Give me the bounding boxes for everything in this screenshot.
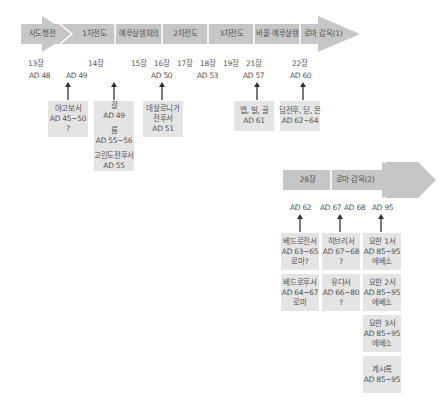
letter-date: AD 62~64 (282, 116, 318, 126)
letter-box-1-peter: 베드로전서 AD 63~65 로마? (281, 233, 319, 270)
segment-jerusalem-council: 예루살렘회의 (116, 24, 162, 44)
letter-date: AD 51 (152, 124, 173, 134)
segment-rome-prison-1: 로마 감옥(1) (301, 24, 345, 44)
date-label: AD 53 (197, 71, 218, 80)
up-arrow-icon (157, 82, 167, 100)
chapter-label: 18장 (200, 57, 216, 68)
letter-title: 요한 3서 (369, 319, 396, 329)
letter-title: 요한 2서 (369, 278, 396, 288)
letter-date: AD 55~56 (96, 136, 132, 146)
date-label: AD 49 (66, 71, 87, 80)
date-label: AD 67 (320, 203, 341, 212)
letter-box-thessalonians: 데살로니가 전후서 AD 51 (143, 101, 183, 137)
chapter-label: 15장 (131, 57, 147, 68)
letter-date: AD 67~68 (323, 247, 359, 257)
letter-place: 에베소 (372, 298, 392, 308)
segment-second-journey: 2차전도 (163, 24, 208, 44)
letter-title: 데살로니가 (146, 104, 180, 114)
date-label: AD 57 (243, 71, 264, 80)
letter-title: 엡, 빌, 골 (240, 106, 268, 116)
letter-place: 로마? (291, 257, 308, 267)
up-arrow-icon (298, 82, 308, 100)
segment-acts: 사도행전 (22, 24, 62, 44)
letter-box-hebrews: 히브리서 AD 67~68 ? (322, 233, 360, 270)
date-label: AD 62 (290, 203, 311, 212)
letter-title: 요한 1서 (369, 237, 396, 247)
chapter-label: 22장 (292, 57, 308, 68)
letter-date: AD 61 (243, 116, 264, 126)
segment-third-journey: 3차전도 (209, 24, 254, 44)
date-label: AD 68 (344, 203, 365, 212)
up-arrow-icon (63, 82, 73, 100)
chapter-label: 13장 (28, 57, 44, 68)
letter-place: ? (339, 257, 343, 267)
letter-title: 계시록 (372, 365, 392, 375)
chapter-label: 21장 (246, 57, 262, 68)
segment-rome-prison-2: 로마 감옥(2) (332, 170, 378, 190)
letter-box-ephesians-philippians-colossians: 엡, 빌, 골 AD 61 (234, 101, 274, 131)
chapter-label: 14장 (88, 57, 104, 68)
letter-title: 딤전후, 딛, 몬 (279, 106, 321, 116)
letter-date: AD 49 (103, 111, 124, 121)
letter-title: 야고보서 (55, 104, 82, 114)
letter-box-3-john: 요한 3서 AD 85~95 에베소 (363, 315, 401, 352)
letter-title: 히브리서 (328, 237, 355, 247)
letter-box-james: 야고보서 AD 45~50 ? (48, 101, 88, 137)
letter-box-1-john: 요한 1서 AD 85~95 에베소 (363, 233, 401, 270)
letter-place: ? (66, 124, 70, 134)
letter-place: 에베소 (372, 339, 392, 349)
letter-box-2-peter: 베드로후서 AD 64~67 로마 (281, 274, 319, 311)
letter-date: AD 85~95 (364, 288, 400, 298)
letter-date: AD 63~65 (282, 247, 318, 257)
up-arrow-icon (109, 82, 119, 100)
letter-date: AD 64~67 (282, 288, 318, 298)
letter-title: 갈 (111, 101, 118, 111)
up-arrow-icon (252, 82, 262, 100)
letter-box-timothy-titus-philemon: 딤전후, 딛, 몬 AD 62~64 (280, 101, 320, 131)
segment-chapter-28: 28장 (284, 170, 331, 190)
letter-place: 로마 (293, 298, 306, 308)
letter-title: 롬 (111, 126, 118, 136)
letter-place: 에베소 (372, 257, 392, 267)
date-label: AD 50 (151, 71, 172, 80)
up-arrow-icon (295, 214, 305, 232)
letter-box-jude: 유다서 AD 66~80 ? (322, 274, 360, 311)
letter-title: 전후서 (153, 114, 173, 124)
chapter-label: 17장 (177, 57, 193, 68)
up-arrow-icon (376, 214, 386, 232)
letter-place: ? (339, 298, 343, 308)
segment-paul-jerusalem: 바울·예루살렘 (255, 24, 300, 44)
letter-date: AD 85~95 (364, 247, 400, 257)
letter-box-revelation: 계시록 AD 85~95 (363, 356, 401, 393)
segment-first-journey: 1차전도 (74, 24, 115, 44)
letter-date: AD 66~80 (323, 288, 359, 298)
letter-date: AD 45~50 (50, 114, 86, 124)
date-label: AD 60 (290, 71, 311, 80)
letter-date: AD 85~95 (364, 375, 400, 385)
letter-title: 베드로후서 (283, 278, 317, 288)
letter-title: 유다서 (331, 278, 351, 288)
date-label: AD 48 (29, 71, 50, 80)
up-arrow-icon (335, 214, 345, 232)
letter-box-2-john: 요한 2서 AD 85~95 에베소 (363, 274, 401, 311)
chapter-label: 19장 (223, 57, 239, 68)
date-label: AD 95 (372, 203, 393, 212)
letter-title: 베드로전서 (283, 237, 317, 247)
letter-date: AD 85~95 (364, 329, 400, 339)
chapter-label: 16장 (154, 57, 170, 68)
